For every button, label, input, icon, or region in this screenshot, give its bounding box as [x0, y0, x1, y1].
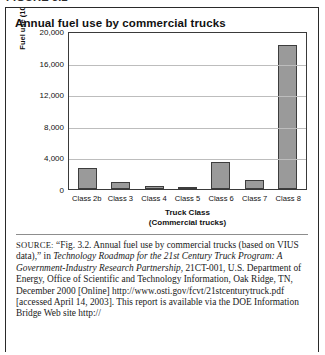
x-axis-tick-label: Class 3: [104, 194, 138, 203]
gridline: [69, 159, 306, 160]
bar: [78, 168, 97, 189]
x-axis-title-sub: (Commercial trucks): [68, 218, 307, 228]
bar: [178, 187, 197, 189]
bar-slot: [204, 33, 237, 189]
bar-slot: [138, 33, 171, 189]
y-axis-tick-label: 4,000: [44, 154, 64, 163]
source-divider: [16, 234, 308, 235]
gridline: [69, 65, 306, 66]
bar-slot: [271, 33, 304, 189]
x-axis-tick-label: Class 8: [271, 194, 305, 203]
page-top-strip: FIGURE 3.2: [0, 0, 325, 6]
cut-off-figure-caption: FIGURE 3.2: [6, 0, 68, 3]
figure-container: Annual fuel use by commercial trucks Fue…: [5, 7, 319, 352]
y-axis-tick-label: 0: [60, 186, 64, 195]
bar-slot: [171, 33, 204, 189]
y-axis-tick-label: 8,000: [44, 122, 64, 131]
bar: [145, 186, 164, 189]
y-axis-tick-labels: 04,0008,00012,00016,00020,000: [20, 32, 64, 190]
x-axis-tick-label: Class 4: [137, 194, 171, 203]
source-label: SOURCE:: [16, 240, 54, 250]
bar: [211, 162, 230, 189]
x-axis-title-main: Truck Class: [68, 208, 307, 218]
y-axis-tick-label: 12,000: [40, 91, 64, 100]
gridline: [69, 128, 306, 129]
bar: [111, 182, 130, 189]
bar: [245, 180, 264, 189]
bar-slot: [104, 33, 137, 189]
y-axis-tick-label: 16,000: [40, 59, 64, 68]
x-axis-tick-label: Class 7: [238, 194, 272, 203]
x-axis-tick-label: Class 2b: [70, 194, 104, 203]
gridline: [69, 96, 306, 97]
plot-area: [68, 32, 307, 190]
y-axis-tick-label: 20,000: [40, 28, 64, 37]
x-axis-tick-labels: Class 2bClass 3Class 4Class 5Class 6Clas…: [68, 194, 307, 203]
bar-slot: [71, 33, 104, 189]
bar-chart: Fuel use (106 gallons) 04,0008,00012,000…: [6, 32, 319, 228]
bar: [278, 45, 297, 189]
x-axis-tick-label: Class 5: [171, 194, 205, 203]
source-note: SOURCE: “Fig. 3.2. Annual fuel use by co…: [16, 240, 308, 320]
x-axis-tick-label: Class 6: [204, 194, 238, 203]
bar-slot: [237, 33, 270, 189]
bar-series: [69, 33, 306, 189]
x-axis-title: Truck Class (Commercial trucks): [68, 208, 307, 228]
